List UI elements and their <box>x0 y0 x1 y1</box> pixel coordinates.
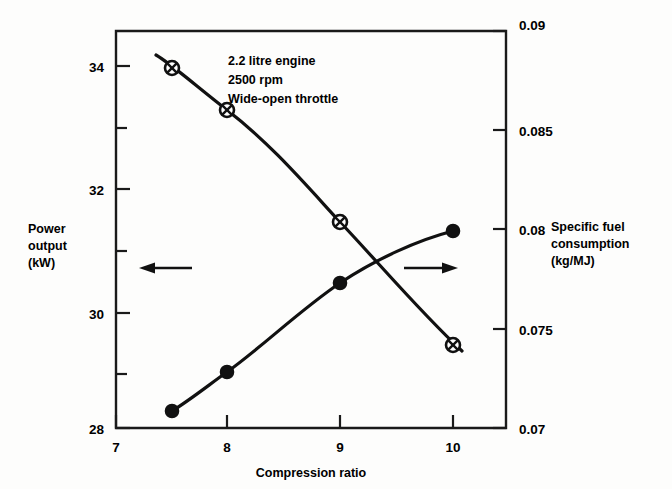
left-axis-title: Power output (kW) <box>28 222 68 270</box>
right-axis-ticks <box>493 31 506 428</box>
right-tick-label-0.08: 0.08 <box>519 223 546 238</box>
left-axis-title-line-1: Power <box>28 222 66 236</box>
right-axis-title-line-3: (kg/MJ) <box>551 254 595 268</box>
left-tick-label-32: 32 <box>89 183 104 198</box>
right-axis-title: Specific fuel consumption (kg/MJ) <box>551 220 629 268</box>
left-tick-label-28: 28 <box>89 422 105 437</box>
series-power-output <box>166 225 460 418</box>
left-tick-label-30: 30 <box>89 307 104 322</box>
data-point-marker <box>166 405 179 418</box>
right-tick-label-0.07: 0.07 <box>519 422 545 437</box>
right-axis-title-line-1: Specific fuel <box>551 220 625 234</box>
left-axis-ticks <box>116 66 130 428</box>
right-pointing-arrow <box>404 263 458 274</box>
data-point-marker <box>447 225 460 238</box>
left-axis-title-line-3: (kW) <box>28 256 55 270</box>
x-tick-label-8: 8 <box>223 440 231 455</box>
chart-figure: 34 32 30 28 0.09 0.085 0.08 0.075 0.07 7… <box>0 0 672 489</box>
left-arrow-head <box>139 263 155 274</box>
right-tick-label-0.085: 0.085 <box>519 124 553 139</box>
data-point-marker <box>221 366 234 379</box>
power-output-markers <box>166 225 460 418</box>
x-tick-label-7: 7 <box>112 440 120 455</box>
right-arrow-head <box>442 263 458 274</box>
annotation-line-2: 2500 rpm <box>228 73 283 87</box>
right-tick-label-0.09: 0.09 <box>519 18 545 33</box>
data-point-marker <box>165 61 179 75</box>
right-tick-label-0.075: 0.075 <box>519 323 553 338</box>
chart-canvas: 34 32 30 28 0.09 0.085 0.08 0.075 0.07 7… <box>0 0 672 489</box>
x-axis-title: Compression ratio <box>256 466 367 480</box>
left-pointing-arrow <box>139 263 192 274</box>
left-axis-title-line-2: output <box>28 239 68 253</box>
x-axis-ticks <box>116 415 453 428</box>
left-tick-label-34: 34 <box>89 60 105 75</box>
annotation-line-3: Wide-open throttle <box>228 92 338 106</box>
data-point-marker <box>334 277 347 290</box>
data-point-marker <box>333 215 347 229</box>
x-tick-label-10: 10 <box>445 440 460 455</box>
data-point-marker <box>446 338 460 352</box>
right-axis-title-line-2: consumption <box>551 237 629 251</box>
power-output-curve <box>172 231 453 411</box>
annotation-line-1: 2.2 litre engine <box>228 54 316 68</box>
data-point-marker <box>220 103 234 117</box>
chart-annotation-block: 2.2 litre engine 2500 rpm Wide-open thro… <box>228 54 338 106</box>
x-tick-label-9: 9 <box>336 440 344 455</box>
